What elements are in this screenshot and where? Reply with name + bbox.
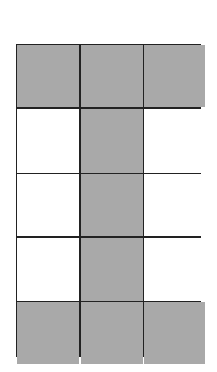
- grid-cell-r1-c1-filled: [17, 45, 79, 107]
- grid-cell-r3-c2-filled: [81, 174, 143, 236]
- grid-cell-r5-c1-filled: [17, 302, 79, 364]
- shaded-grid: [16, 44, 201, 357]
- grid-cell-r3-c3-empty: [144, 174, 205, 236]
- grid-cell-r2-c2-filled: [81, 109, 143, 173]
- grid-cell-r5-c3-filled: [144, 302, 205, 364]
- grid-cell-r1-c2-filled: [81, 45, 143, 107]
- grid-cell-r2-c1-empty: [17, 109, 79, 173]
- grid-cell-r4-c2-filled: [81, 238, 143, 301]
- grid-cell-r4-c3-empty: [144, 238, 205, 301]
- grid-cell-r4-c1-empty: [17, 238, 79, 301]
- grid-cell-r3-c1-empty: [17, 174, 79, 236]
- canvas: [0, 0, 217, 372]
- grid-cell-r1-c3-filled: [144, 45, 205, 107]
- grid-cell-r5-c2-filled: [81, 302, 143, 364]
- grid-cell-r2-c3-empty: [144, 109, 205, 173]
